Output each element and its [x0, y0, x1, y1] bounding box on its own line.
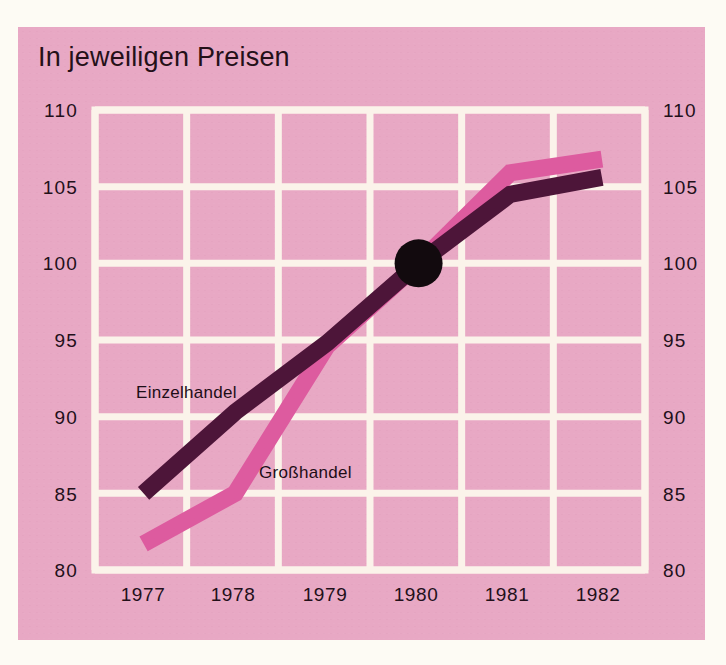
chart-figure: In jeweiligen Preisen 110 105 100 95 90 … [0, 0, 726, 665]
x-tick-1982: 1982 [553, 584, 643, 606]
series-label-einzelhandel: Einzelhandel [136, 383, 237, 403]
base-year-marker-icon [395, 239, 443, 287]
y-tick-left-80: 80 [22, 560, 78, 582]
y-tick-left-95: 95 [22, 330, 78, 352]
y-tick-right-90: 90 [663, 407, 719, 429]
x-tick-1977: 1977 [98, 584, 188, 606]
x-tick-1980: 1980 [371, 584, 461, 606]
x-tick-1979: 1979 [280, 584, 370, 606]
y-tick-right-80: 80 [663, 560, 719, 582]
plot-area [0, 0, 726, 665]
y-tick-left-100: 100 [22, 253, 78, 275]
y-tick-right-105: 105 [663, 177, 719, 199]
y-tick-left-85: 85 [22, 484, 78, 506]
y-tick-left-90: 90 [22, 407, 78, 429]
y-tick-right-110: 110 [663, 100, 719, 122]
y-tick-left-105: 105 [22, 177, 78, 199]
y-tick-right-95: 95 [663, 330, 719, 352]
y-tick-right-85: 85 [663, 484, 719, 506]
series-label-grosshandel: Großhandel [259, 463, 352, 483]
y-tick-left-110: 110 [22, 100, 78, 122]
x-tick-1981: 1981 [462, 584, 552, 606]
x-tick-1978: 1978 [188, 584, 278, 606]
y-tick-right-100: 100 [663, 253, 719, 275]
